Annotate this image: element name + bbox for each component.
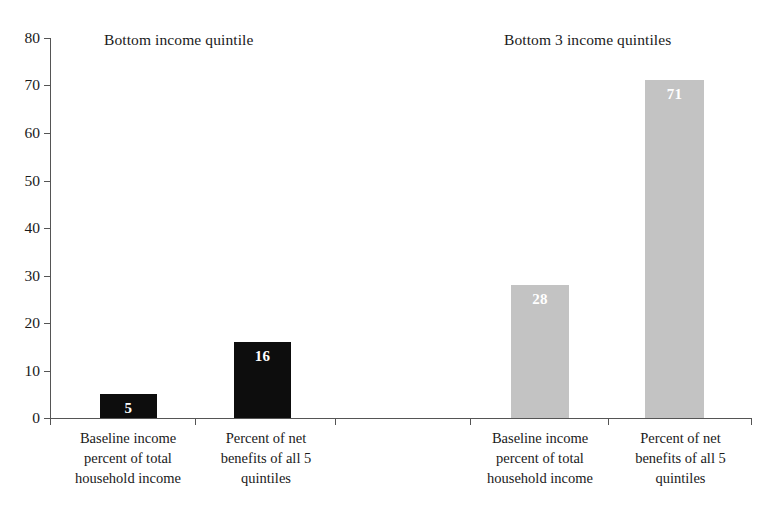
- bar-value-label-0: 5: [100, 401, 157, 416]
- y-tick-mark-60: [44, 133, 51, 134]
- x-category-label-2-line-2: household income: [466, 468, 614, 488]
- y-tick-mark-30: [44, 276, 51, 277]
- y-tick-label-80: 80: [10, 30, 40, 46]
- x-category-label-2-line-0: Baseline income: [466, 428, 614, 448]
- bar-value-label-1: 16: [234, 349, 291, 364]
- y-tick-label-60: 60: [10, 125, 40, 141]
- x-category-label-3-line-2: quintiles: [608, 468, 753, 488]
- x-category-label-0-line-1: percent of total: [54, 448, 202, 468]
- group-title-left: Bottom income quintile: [104, 31, 253, 49]
- x-category-label-0-line-2: household income: [54, 468, 202, 488]
- y-tick-label-10: 10: [10, 363, 40, 379]
- bar-0: 5: [100, 394, 157, 418]
- x-tick-mark-4: [608, 418, 609, 425]
- y-tick-label-40: 40: [10, 220, 40, 236]
- bar-value-label-2: 28: [511, 292, 569, 307]
- group-title-right: Bottom 3 income quintiles: [504, 31, 671, 49]
- y-tick-label-20: 20: [10, 315, 40, 331]
- bar-1: 16: [234, 342, 291, 418]
- x-axis-line: [50, 418, 752, 419]
- x-category-label-2: Baseline income percent of total househo…: [466, 428, 614, 488]
- x-tick-mark-5: [751, 418, 752, 425]
- y-tick-mark-10: [44, 371, 51, 372]
- x-tick-mark-2: [335, 418, 336, 425]
- y-tick-mark-20: [44, 323, 51, 324]
- bar-3: 71: [645, 80, 704, 418]
- bar-2: 28: [511, 285, 569, 418]
- y-tick-mark-80: [44, 38, 51, 39]
- y-tick-mark-70: [44, 85, 51, 86]
- x-category-label-3-line-0: Percent of net: [608, 428, 753, 448]
- x-category-label-1-line-1: benefits of all 5: [196, 448, 336, 468]
- x-tick-mark-0: [50, 418, 51, 425]
- y-tick-label-50: 50: [10, 173, 40, 189]
- bar-value-label-3: 71: [645, 87, 704, 102]
- y-tick-mark-40: [44, 228, 51, 229]
- x-tick-mark-1: [195, 418, 196, 425]
- y-tick-mark-50: [44, 181, 51, 182]
- x-category-label-0-line-0: Baseline income: [54, 428, 202, 448]
- x-category-label-0: Baseline income percent of total househo…: [54, 428, 202, 488]
- x-category-label-2-line-1: percent of total: [466, 448, 614, 468]
- y-tick-label-70: 70: [10, 77, 40, 93]
- y-tick-label-30: 30: [10, 268, 40, 284]
- y-tick-label-0: 0: [10, 410, 40, 426]
- x-category-label-1-line-0: Percent of net: [196, 428, 336, 448]
- bar-chart-figure: Bottom income quintile Bottom 3 income q…: [0, 0, 770, 516]
- x-category-label-3-line-1: benefits of all 5: [608, 448, 753, 468]
- x-category-label-3: Percent of net benefits of all 5 quintil…: [608, 428, 753, 488]
- x-tick-mark-3: [470, 418, 471, 425]
- x-category-label-1: Percent of net benefits of all 5 quintil…: [196, 428, 336, 488]
- x-category-label-1-line-2: quintiles: [196, 468, 336, 488]
